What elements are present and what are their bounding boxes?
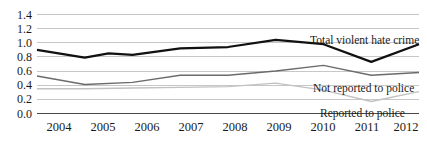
x-tick-label-2006: 2006 (135, 120, 160, 134)
x-tick-label-2004: 2004 (47, 120, 73, 134)
chart-canvas: 1.4 1.2 1.0 0.8 0.6 0.4 0.2 0.0 2004 200… (0, 0, 427, 151)
annotation-not-reported-to-police: Not reported to police (313, 82, 414, 95)
y-tick-label-1.0: 1.0 (17, 36, 32, 50)
y-tick-label-0.0: 0.0 (17, 107, 32, 121)
x-tick-label-2012: 2012 (394, 120, 419, 134)
y-tick-label-0.2: 0.2 (17, 92, 32, 106)
annotation-total-violent-hate-crime: Total violent hate crime (310, 34, 419, 46)
x-tick-label-2008: 2008 (223, 120, 248, 134)
x-tick-label-2009: 2009 (267, 120, 292, 134)
y-tick-label-0.4: 0.4 (17, 78, 32, 92)
y-tick-label-0.8: 0.8 (17, 50, 32, 64)
x-tick-label-2010: 2010 (311, 120, 336, 134)
line-chart: 1.4 1.2 1.0 0.8 0.6 0.4 0.2 0.0 2004 200… (0, 0, 427, 151)
y-tick-label-1.4: 1.4 (17, 8, 32, 22)
y-tick-label-0.6: 0.6 (17, 64, 32, 78)
x-tick-label-2005: 2005 (91, 120, 116, 134)
y-tick-label-1.2: 1.2 (17, 22, 32, 36)
x-axis-tick-labels: 2004 2005 2006 2007 2008 2009 2010 2011 … (47, 120, 419, 134)
x-tick-label-2007: 2007 (179, 120, 204, 134)
series-annotations: Total violent hate crime Not reported to… (310, 34, 419, 120)
x-tick-label-2011: 2011 (355, 120, 380, 134)
annotation-reported-to-police: Reported to police (320, 107, 405, 120)
y-axis-tick-labels: 1.4 1.2 1.0 0.8 0.6 0.4 0.2 0.0 (17, 8, 32, 121)
